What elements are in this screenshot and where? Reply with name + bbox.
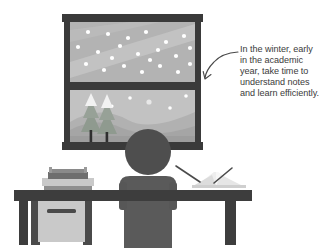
callout-line-4: understand notes xyxy=(240,77,324,88)
desk-leg-left xyxy=(19,201,28,245)
cabinet xyxy=(31,201,92,245)
tree-left-trunk xyxy=(90,130,93,142)
illustration-canvas xyxy=(0,0,326,248)
moon xyxy=(146,99,151,104)
book-cover-edge xyxy=(192,185,246,188)
upper-pane-night-sky xyxy=(70,22,195,82)
printer xyxy=(42,167,94,192)
person-silhouette xyxy=(119,129,177,248)
callout-text: In the winter, early in the academic yea… xyxy=(240,44,324,99)
printer-knob-left xyxy=(49,167,52,173)
printer-knob-right xyxy=(84,167,87,173)
callout-line-5: and learn efficiently. xyxy=(240,88,324,99)
printer-base xyxy=(42,178,94,186)
callout-line-1: In the winter, early xyxy=(240,44,324,55)
printer-body xyxy=(48,172,88,179)
window-mullion xyxy=(64,82,201,90)
desk-top xyxy=(14,190,252,201)
printer-paper-tray xyxy=(50,169,86,173)
callout-line-2: in the academic xyxy=(240,55,324,66)
desk-leg-right xyxy=(225,201,236,245)
tree-right-trunk xyxy=(106,132,109,142)
lower-pane-landscape xyxy=(70,90,195,142)
window-head-sill xyxy=(62,14,203,22)
person-head xyxy=(125,129,171,175)
cabinet-handle xyxy=(47,209,76,213)
callout-line-3: year, take time to xyxy=(240,66,324,77)
window xyxy=(62,14,203,150)
cabinet-front xyxy=(38,201,85,242)
